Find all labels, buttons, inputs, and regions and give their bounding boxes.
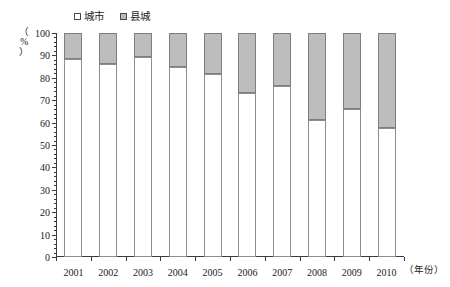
y-tick-major — [52, 55, 56, 56]
y-tick-minor — [54, 221, 57, 222]
x-tick-label: 2008 — [307, 267, 327, 278]
y-tick-minor — [54, 109, 57, 110]
stacked-bar-chart: 城市 县城 （%） （年份） 0102030405060708090100 20… — [0, 0, 450, 287]
y-tick-minor — [54, 91, 57, 92]
bar-segment-county[interactable] — [378, 33, 396, 128]
y-tick-minor — [54, 217, 57, 218]
bar-segment-city[interactable] — [238, 93, 256, 257]
y-tick-label: 100 — [35, 28, 50, 39]
y-tick-major — [52, 190, 56, 191]
x-tick — [404, 257, 405, 261]
bar-segment-county[interactable] — [99, 33, 117, 64]
bar-group-2005[interactable] — [204, 33, 222, 257]
y-tick-label: 30 — [40, 184, 50, 195]
legend-label-county: 县城 — [130, 11, 150, 22]
bar-segment-county[interactable] — [273, 33, 291, 86]
legend-swatch-county-icon — [120, 13, 127, 20]
y-tick-label: 80 — [40, 72, 50, 83]
bar-group-2009[interactable] — [343, 33, 361, 257]
bar-group-2010[interactable] — [378, 33, 396, 257]
y-tick-minor — [54, 181, 57, 182]
x-tick — [334, 257, 335, 261]
x-tick-label: 2002 — [98, 267, 118, 278]
y-tick-label: 70 — [40, 95, 50, 106]
bar-segment-city[interactable] — [99, 64, 117, 257]
y-tick-label: 0 — [45, 252, 50, 263]
y-tick-minor — [54, 60, 57, 61]
bar-segment-county[interactable] — [204, 33, 222, 74]
bar-group-2004[interactable] — [169, 33, 187, 257]
y-tick-label: 40 — [40, 162, 50, 173]
bar-segment-city[interactable] — [134, 57, 152, 257]
x-tick-label: 2001 — [63, 267, 83, 278]
chart-legend: 城市 县城 — [74, 11, 150, 22]
y-tick-minor — [54, 149, 57, 150]
x-tick-label: 2009 — [342, 267, 362, 278]
bar-group-2003[interactable] — [134, 33, 152, 257]
bar-segment-city[interactable] — [378, 128, 396, 257]
y-tick-minor — [54, 136, 57, 137]
bar-segment-city[interactable] — [343, 109, 361, 257]
y-tick-major — [52, 78, 56, 79]
bar-segment-county[interactable] — [343, 33, 361, 109]
bar-group-2007[interactable] — [273, 33, 291, 257]
legend-swatch-city-icon — [74, 13, 81, 20]
x-tick-label: 2006 — [237, 267, 257, 278]
y-tick-minor — [54, 194, 57, 195]
y-tick-major — [52, 33, 56, 34]
bar-group-2002[interactable] — [99, 33, 117, 257]
y-tick-minor — [54, 42, 57, 43]
y-tick-minor — [54, 127, 57, 128]
x-tick — [160, 257, 161, 261]
y-tick-minor — [54, 87, 57, 88]
bar-group-2008[interactable] — [308, 33, 326, 257]
y-tick-minor — [54, 69, 57, 70]
bar-segment-city[interactable] — [204, 74, 222, 257]
y-tick-minor — [54, 176, 57, 177]
y-tick-label: 20 — [40, 207, 50, 218]
y-tick-minor — [54, 37, 57, 38]
y-tick-minor — [54, 248, 57, 249]
legend-item-city: 城市 — [74, 11, 104, 22]
x-axis-unit-label: （年份） — [404, 262, 444, 276]
x-tick-label: 2004 — [168, 267, 188, 278]
bar-group-2006[interactable] — [238, 33, 256, 257]
y-tick-minor — [54, 203, 57, 204]
plot-area: 0102030405060708090100 20012002200320042… — [56, 33, 404, 257]
y-tick-minor — [54, 114, 57, 115]
y-tick-minor — [54, 239, 57, 240]
bar-segment-city[interactable] — [273, 86, 291, 257]
y-tick-label: 60 — [40, 117, 50, 128]
y-tick-major — [52, 167, 56, 168]
y-tick-major — [52, 145, 56, 146]
x-tick-label: 2010 — [377, 267, 397, 278]
y-tick-minor — [54, 141, 57, 142]
bar-segment-county[interactable] — [64, 33, 82, 59]
x-tick — [265, 257, 266, 261]
bar-segment-county[interactable] — [134, 33, 152, 57]
bar-segment-city[interactable] — [308, 120, 326, 257]
y-tick-minor — [54, 226, 57, 227]
y-tick-minor — [54, 199, 57, 200]
y-axis-line — [56, 33, 57, 257]
y-tick-minor — [54, 163, 57, 164]
bar-segment-county[interactable] — [169, 33, 187, 67]
y-tick-minor — [54, 154, 57, 155]
y-tick-minor — [54, 172, 57, 173]
y-tick-minor — [54, 253, 57, 254]
x-tick — [230, 257, 231, 261]
y-tick-minor — [54, 82, 57, 83]
y-tick-minor — [54, 132, 57, 133]
bar-segment-city[interactable] — [64, 59, 82, 257]
y-tick-minor — [54, 46, 57, 47]
x-tick — [126, 257, 127, 261]
bar-group-2001[interactable] — [64, 33, 82, 257]
y-tick-label: 10 — [40, 229, 50, 240]
bar-segment-county[interactable] — [238, 33, 256, 93]
y-tick-minor — [54, 51, 57, 52]
y-tick-minor — [54, 73, 57, 74]
y-tick-minor — [54, 105, 57, 106]
bar-segment-county[interactable] — [308, 33, 326, 120]
x-tick-label: 2007 — [272, 267, 292, 278]
bar-segment-city[interactable] — [169, 67, 187, 257]
